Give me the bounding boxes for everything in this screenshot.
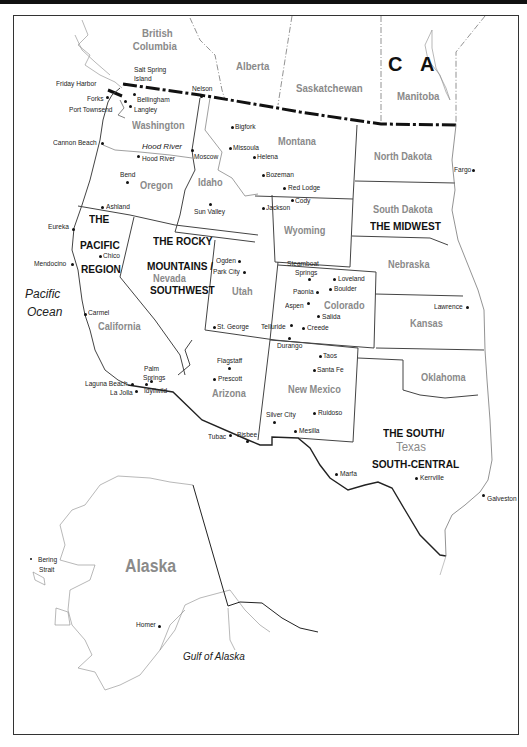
city-lawrence: Lawrence — [434, 303, 463, 311]
city-dot — [101, 206, 104, 209]
city-dot — [288, 337, 291, 340]
city-dot — [415, 477, 418, 480]
country-label-c: C — [388, 54, 402, 74]
city-dot — [213, 378, 216, 381]
state-arizona: Arizona — [212, 388, 246, 399]
city-dot — [253, 156, 256, 159]
city-dot — [238, 260, 241, 263]
city-aspen: Aspen — [285, 302, 304, 310]
city-bozeman: Bozeman — [266, 171, 294, 179]
city-friday-harbor: Friday Harbor — [56, 80, 96, 88]
state-idaho: Idaho — [198, 177, 223, 188]
city-dot — [99, 255, 102, 258]
city-idyllwild: Idyllwild — [144, 387, 167, 395]
water-hood-river: Hood River — [142, 143, 182, 151]
city-dot — [283, 187, 286, 190]
state-wyoming: Wyoming — [284, 225, 325, 236]
state-colorado: Colorado — [324, 300, 365, 311]
city-cannon-beach: Cannon Beach — [53, 139, 97, 147]
city-santa-fe: Santa Fe — [317, 366, 344, 374]
city-dot — [229, 147, 232, 150]
city-creede: Creede — [307, 324, 329, 332]
region-rocky-line1: THE ROCKY — [153, 236, 213, 247]
city-jackson: Jackson — [266, 204, 290, 212]
water-pacific-ocean-line2: Ocean — [27, 306, 62, 318]
city-palm-springs-line2: Springs — [143, 374, 165, 382]
city-forks: Forks — [87, 95, 104, 103]
province-british-columbia: British Columbia — [138, 28, 177, 52]
bering-strait-marker — [30, 558, 32, 560]
city-dot — [294, 430, 297, 433]
region-rocky-line2: MOUNTAINS / — [147, 261, 213, 272]
city-ogden: Ogden — [216, 257, 236, 265]
city-dot — [231, 126, 234, 129]
city-moscow: Moscow — [194, 153, 218, 161]
state-oregon: Oregon — [140, 180, 173, 191]
city-dot — [313, 369, 316, 372]
city-dot — [133, 93, 136, 96]
city-sun-valley: Sun Valley — [194, 208, 225, 216]
water-pacific-ocean-line1: Pacific — [25, 288, 60, 300]
city-dot — [124, 100, 127, 103]
region-midwest: THE MIDWEST — [370, 221, 441, 232]
province-saskatchewan: Saskatchewan — [296, 83, 363, 94]
state-nevada: Nevada — [153, 273, 186, 284]
city-dot — [313, 412, 316, 415]
city-taos: Taos — [323, 352, 337, 360]
water-bering-strait-line1: Bering — [38, 556, 57, 564]
state-kansas: Kansas — [410, 318, 443, 329]
city-loveland: Loveland — [338, 275, 365, 283]
city-fargo: Fargo — [454, 166, 471, 174]
city-dot — [213, 326, 216, 329]
region-rocky-line3: SOUTHWEST — [150, 285, 215, 296]
city-paonia: Paonia — [293, 288, 314, 296]
city-bend: Bend — [120, 171, 135, 179]
region-south-line2: SOUTH-CENTRAL — [372, 459, 459, 470]
state-texas: Texas — [396, 440, 426, 453]
city-dot — [273, 421, 276, 424]
city-bigfork: Bigfork — [235, 123, 256, 131]
city-dot — [131, 383, 134, 386]
city-dot — [106, 96, 109, 99]
city-bellingham: Bellingham — [137, 96, 170, 104]
city-mesilla: Mesilla — [299, 427, 320, 435]
city-steamboat-springs-line2: Springs — [295, 269, 317, 277]
province-manitoba: Manitoba — [397, 91, 439, 102]
city-dot — [228, 367, 231, 370]
city-dot — [466, 306, 469, 309]
state-south-dakota: South Dakota — [373, 204, 433, 215]
city-dot — [333, 278, 336, 281]
city-dot — [262, 207, 265, 210]
city-palm-springs-line1: Palm — [144, 365, 159, 373]
city-salt-spring-island-line2: Island — [134, 75, 152, 83]
city-ashland: Ashland — [106, 203, 130, 211]
city-missoula: Missoula — [233, 144, 259, 152]
city-dot — [71, 263, 74, 266]
city-laguna-beach: Laguna Beach — [85, 380, 128, 388]
province-alberta: Alberta — [236, 61, 269, 72]
city-dot — [243, 271, 246, 274]
state-utah: Utah — [232, 286, 253, 297]
province-label-line2: Columbia — [133, 41, 177, 52]
city-mendocino: Mendocino — [34, 260, 66, 268]
city-ruidoso: Ruidoso — [318, 409, 342, 417]
city-dot — [150, 380, 153, 383]
city-dot — [129, 105, 132, 108]
city-dot — [335, 473, 338, 476]
water-bering-strait-line2: Strait — [39, 566, 54, 574]
city-telluride: Telluride — [261, 323, 286, 331]
city-dot — [246, 440, 249, 443]
city-salt-spring-island-line1: Salt Spring — [134, 66, 166, 74]
state-north-dakota: North Dakota — [374, 151, 432, 162]
state-oklahoma: Oklahoma — [421, 372, 466, 383]
city-cody: Cody — [295, 197, 310, 205]
water-gulf-of-alaska: Gulf of Alaska — [183, 652, 245, 662]
city-dot — [72, 228, 75, 231]
city-homer: Homer — [136, 621, 156, 629]
state-california: California — [98, 321, 141, 332]
city-dot — [262, 174, 265, 177]
city-boulder: Boulder — [334, 285, 357, 293]
city-dot — [200, 95, 203, 98]
city-dot — [319, 355, 322, 358]
state-new-mexico: New Mexico — [288, 384, 341, 395]
